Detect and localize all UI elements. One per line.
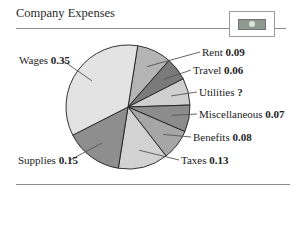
label-benefits: Benefits 0.08 <box>193 131 252 143</box>
label-travel: Travel 0.06 <box>193 64 243 76</box>
label-miscellaneous: Miscellaneous 0.07 <box>199 108 285 120</box>
footer-divider <box>16 184 290 185</box>
label-utilities: Utilities ? <box>199 86 243 98</box>
label-rent: Rent 0.09 <box>202 46 245 58</box>
pie-slices <box>66 45 190 169</box>
label-taxes: Taxes 0.13 <box>181 154 229 166</box>
label-wages: Wages 0.35 <box>19 54 70 66</box>
label-supplies: Supplies 0.15 <box>18 154 78 166</box>
